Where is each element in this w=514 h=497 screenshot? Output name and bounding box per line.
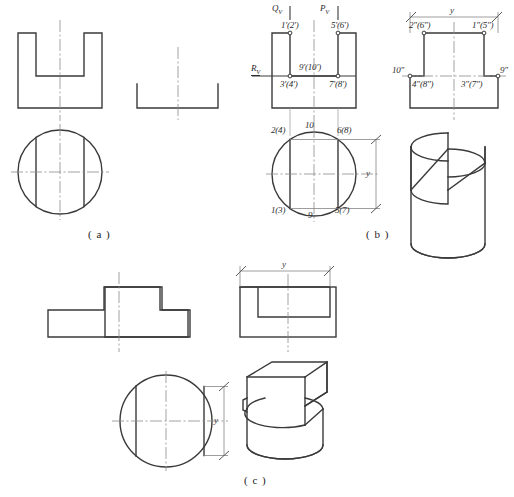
caption-b: ( b ) (366, 228, 389, 240)
label-side-1-5: 1"(5") (472, 21, 493, 30)
part-b-side-node-10 (408, 74, 412, 78)
label-part-c-y-top: y (214, 415, 218, 425)
caption-a: ( a ) (88, 228, 111, 240)
label-part-b-y-top: y (366, 168, 370, 178)
label-side-10: 10" (392, 66, 404, 75)
part-c-front-outline (105, 287, 188, 337)
part-b-front-node-1-2 (288, 31, 292, 35)
label-front-1-2: 1'(2') (281, 21, 299, 30)
caption-c: ( c ) (244, 474, 267, 486)
part-b-pictorial-top-left-arc-front (411, 147, 448, 161)
part-c-pictorial-slab-edge-diag (305, 362, 327, 377)
part-b-pictorial-slot-floor-arc (411, 190, 448, 204)
label-front-7-8: 7'(8') (329, 80, 347, 89)
drawing-sheet: QV PV RV 1'(2') 5'(6') 9'(10') 3'(4') 7'… (0, 0, 514, 497)
part-c-side-inner (240, 287, 330, 317)
part-c-pictorial-slab (247, 362, 327, 409)
label-front-5-6: 5'(6') (331, 21, 349, 30)
label-plane-qv: QV (272, 4, 282, 15)
part-c-pictorial-bottom-arc (247, 445, 323, 459)
part-b-pictorial-top-right-arc-rear (448, 163, 485, 177)
label-top-2-4: 2(4) (271, 126, 285, 135)
label-side-9: 9" (500, 66, 508, 75)
label-part-c-y-side: y (282, 259, 286, 269)
part-c-pictorial-cylinder-body (247, 409, 323, 459)
label-top-6-8: 6(8) (337, 126, 351, 135)
part-b-front-node-7-8 (336, 74, 340, 78)
label-side-3-7: 3"(7") (461, 80, 482, 89)
part-c-pictorial-upper-arc-left (247, 398, 265, 409)
label-plane-pv: PV (320, 4, 329, 15)
label-top-10: 10 (305, 121, 314, 130)
label-front-3-4: 3'(4') (280, 80, 298, 89)
part-c-pictorial-cut-floor-arc (245, 409, 305, 428)
part-c-pictorial-cut-diagonal (305, 409, 323, 425)
part-b-pictorial-top-right-arc (448, 149, 485, 163)
label-side-4-8: 4"(8") (412, 80, 433, 89)
part-b-side-node-1-5 (482, 31, 486, 35)
label-top-9: 9 (308, 211, 312, 220)
part-b-side-node-2-6 (422, 31, 426, 35)
part-a-side-outline (137, 84, 218, 108)
label-part-b-y-side: y (450, 5, 454, 15)
part-b-group (252, 6, 506, 258)
label-top-1-3: 1(3) (271, 206, 285, 215)
part-b-pictorial-bottom-arc (411, 244, 485, 258)
part-b-front-node-5-6 (336, 31, 340, 35)
part-a-group (11, 20, 218, 220)
label-top-5-7: 5(7) (335, 206, 349, 215)
part-b-pictorial-top-left-arc (411, 133, 448, 147)
part-c-group (48, 266, 336, 471)
label-plane-rv: RV (251, 64, 260, 76)
part-b-front-node-3-4 (288, 74, 292, 78)
label-side-2-6: 2"(6") (409, 21, 430, 30)
label-front-9-10: 9'(10') (299, 63, 321, 72)
